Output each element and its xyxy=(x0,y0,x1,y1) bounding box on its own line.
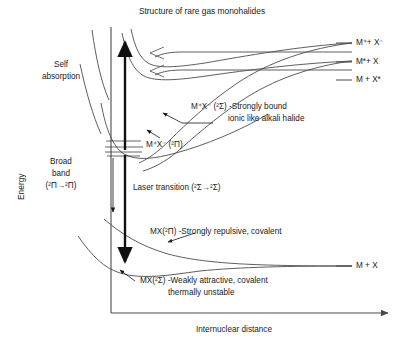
asymptote-label-ground: M + X xyxy=(356,261,378,272)
asymptote-label-x-excited: M + X* xyxy=(356,75,381,86)
ionic-pi-annotation: M⁺X⁻ (²Π) xyxy=(146,140,183,151)
leader-ionic-pi xyxy=(147,130,160,138)
ionic-sigma-annotation-line2: ionic like alkali halide xyxy=(228,114,304,125)
arrow-head-m-excited xyxy=(150,47,164,59)
rare-gas-monohalide-potential-energy-diagram: Structure of rare gas monohalides xyxy=(0,0,404,349)
broad-band-label-line1: Broad xyxy=(33,157,89,168)
self-absorption-label-line1: Self xyxy=(28,60,94,71)
x-axis-label: Internuclear distance xyxy=(196,325,272,336)
leader-ionic-sigma xyxy=(163,113,213,123)
asymptote-x-excited-line xyxy=(155,70,352,75)
y-axis-label: Energy xyxy=(16,173,27,200)
covalent-pi-annotation: MX(²Π) -Strongly repulsive, covalent xyxy=(150,227,282,238)
asymptote-label-m-excited: M*+ X xyxy=(356,57,379,68)
curve-ionic-sigma xyxy=(131,29,352,67)
ionic-sigma-annotation-line1: M⁺X⁻ (²Σ) -Strongly bound xyxy=(191,102,287,113)
asymptote-label-ionic: M⁺+ X⁻ xyxy=(356,38,383,49)
asymptote-tick-lines xyxy=(336,43,352,266)
annotation-leaders xyxy=(120,113,213,281)
broad-band-label-term: (²Π→²Π) xyxy=(26,181,96,192)
excited-state-curves xyxy=(80,29,352,171)
curve-covalent-sigma xyxy=(78,236,352,277)
covalent-sigma-annotation-line2: thermally unstable xyxy=(168,288,234,299)
covalent-sigma-annotation-line1: MX(²Σ) -Weakly attractive, covalent xyxy=(140,276,268,287)
laser-transition-label: Laser transition (²Σ→²Σ) xyxy=(133,183,220,194)
broad-band-label-line2: band xyxy=(33,169,89,180)
curve-inner-wall-a xyxy=(92,30,109,100)
self-absorption-label-line2: absorption xyxy=(22,72,100,83)
